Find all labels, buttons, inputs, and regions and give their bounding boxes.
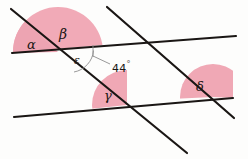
- left-transversal-line: [11, 9, 187, 153]
- angle-label-epsilon: ε: [74, 55, 80, 66]
- angle-label-delta: δ: [196, 80, 204, 93]
- angle-label-beta: β: [59, 27, 67, 41]
- angle-label-alpha: α: [27, 38, 36, 51]
- degree-symbol: °: [126, 60, 130, 69]
- diagram-canvas: α β γ δ ε 44°: [0, 0, 248, 159]
- angle-measure-value: 44: [112, 62, 126, 75]
- angle-delta-shade: [180, 64, 246, 130]
- epsilon-leader-line: [93, 45, 110, 64]
- angle-label-gamma: γ: [104, 89, 112, 102]
- angle-measure-label: 44°: [112, 60, 131, 75]
- geometry-figure: [0, 0, 248, 159]
